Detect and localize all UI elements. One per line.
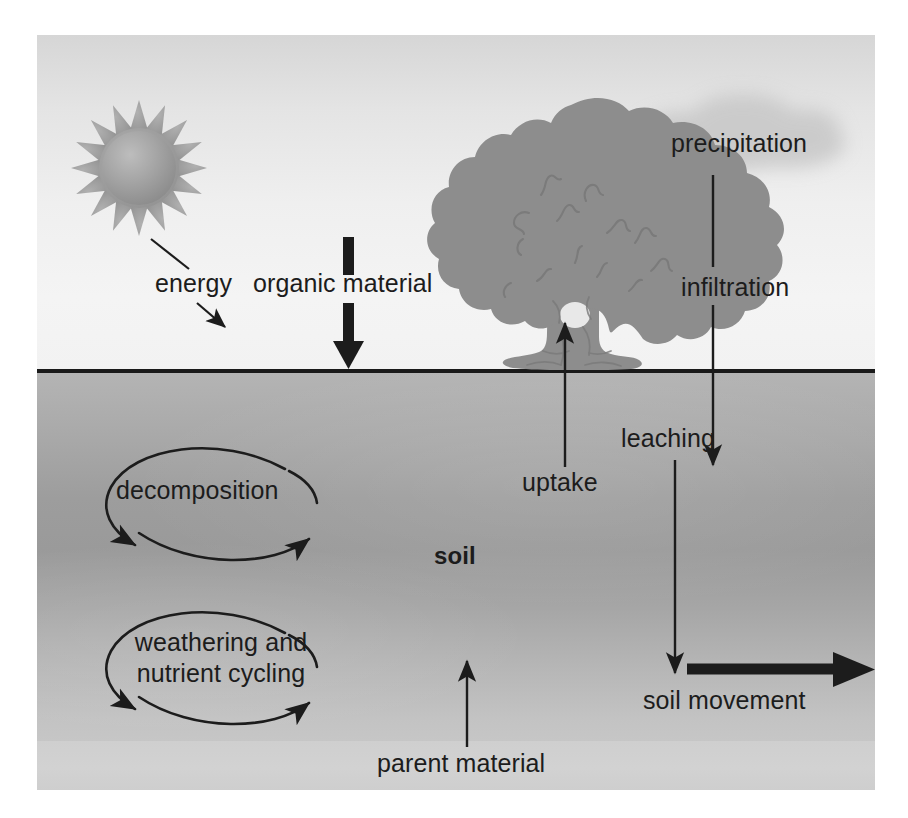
label-weathering-and-nutrient-cycling: weathering and nutrient cycling xyxy=(112,627,330,689)
label-infiltration: infiltration xyxy=(681,272,789,302)
soil-system-diagram: energy organic material precipitation in… xyxy=(37,35,875,790)
label-parent-material: parent material xyxy=(377,748,545,778)
label-precipitation: precipitation xyxy=(671,128,807,158)
label-soil: soil xyxy=(434,541,476,571)
label-soil-movement: soil movement xyxy=(643,685,805,715)
label-organic-material: organic material xyxy=(253,268,432,298)
label-uptake: uptake xyxy=(522,467,598,497)
label-leaching: leaching xyxy=(621,423,715,453)
sun-icon xyxy=(71,100,207,236)
label-energy: energy xyxy=(155,268,232,298)
label-decomposition: decomposition xyxy=(116,475,279,505)
organic-material-arrow xyxy=(333,237,364,369)
soil-movement-arrow xyxy=(687,652,875,687)
screenshot-canvas: energy organic material precipitation in… xyxy=(0,0,908,818)
